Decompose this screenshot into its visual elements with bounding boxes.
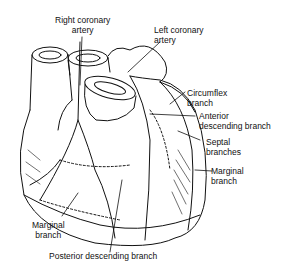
label-marginal-branch-left: Marginal branch bbox=[32, 220, 65, 240]
label-anterior-descending-branch: Anterior descending branch bbox=[199, 111, 271, 131]
label-septal-branches: Septal branches bbox=[206, 137, 241, 157]
label-posterior-descending-branch: Posterior descending branch bbox=[49, 251, 157, 261]
label-right-coronary-artery: Right coronary artery bbox=[55, 15, 110, 35]
label-circumflex-branch: Circumflex branch bbox=[187, 88, 227, 108]
great-vessels bbox=[30, 46, 167, 121]
label-left-coronary-artery: Left coronary artery bbox=[154, 25, 204, 45]
heart-diagram: Right coronary artery Left coronary arte… bbox=[0, 0, 285, 269]
label-marginal-branch-right: Marginal branch bbox=[211, 166, 244, 186]
